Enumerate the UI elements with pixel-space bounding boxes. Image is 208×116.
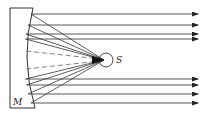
incident-rays-top	[26, 14, 105, 60]
mirror-body	[10, 8, 35, 108]
mirror-label: M	[12, 97, 23, 107]
source-label: S	[116, 55, 122, 65]
incident-rays-bottom	[26, 60, 105, 103]
concave-mirror-diagram: S M	[0, 0, 208, 116]
